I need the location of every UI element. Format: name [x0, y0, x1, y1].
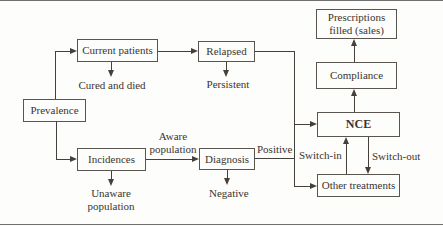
- node-current-patients: Current patients: [77, 39, 158, 62]
- connector-incidences-to-unaware: [111, 171, 112, 179]
- node-other-treatments: Other treatments: [317, 174, 400, 197]
- arrowhead-into-nce: [310, 121, 317, 127]
- connector-junction-to-nce: [294, 124, 310, 125]
- node-prescriptions-filled: Prescriptions filled (sales): [316, 9, 397, 39]
- label-unaware-population: Unaware population: [83, 187, 139, 212]
- arrowhead-switch-out: [365, 167, 371, 174]
- label-switch-out: Switch-out: [372, 150, 420, 163]
- connector-switch-out: [368, 137, 369, 167]
- node-incidences: Incidences: [77, 148, 146, 171]
- label-positive: Positive: [257, 143, 292, 156]
- connector-current-patients-to-relapsed: [158, 51, 191, 52]
- node-prevalence: Prevalence: [23, 99, 86, 122]
- connector-junction-to-other-treatments: [294, 186, 310, 187]
- node-diagnosis: Diagnosis: [199, 148, 255, 170]
- connector-current-patients-to-cured: [111, 62, 112, 70]
- arrowhead-to-unaware-population: [108, 179, 114, 186]
- connector-junction-vertical: [294, 51, 295, 187]
- node-nce: NCE: [317, 112, 400, 137]
- connector-prevalence-to-current-patients: [55, 51, 70, 52]
- figure-bottom-rule: [0, 224, 443, 225]
- arrowhead-into-compliance: [351, 89, 357, 96]
- connector-prevalence-down-vertical: [56, 121, 57, 159]
- connector-diagnosis-to-junction: [255, 158, 295, 159]
- label-cured-and-died: Cured and died: [76, 79, 148, 92]
- connector-relapsed-to-persistent: [226, 62, 227, 70]
- label-persistent: Persistent: [200, 78, 256, 91]
- label-switch-in: Switch-in: [299, 149, 342, 162]
- connector-incidences-to-diagnosis: [146, 159, 192, 160]
- arrowhead-to-persistent: [223, 70, 229, 77]
- figure-top-rule: [0, 0, 443, 1]
- label-aware-population: Aware population: [146, 130, 200, 155]
- arrowhead-switch-in: [343, 137, 349, 144]
- connector-nce-to-compliance: [354, 96, 355, 112]
- arrowhead-into-prescriptions: [351, 39, 357, 46]
- connector-compliance-to-prescriptions: [354, 46, 355, 62]
- connector-relapsed-to-junction: [255, 51, 295, 52]
- node-relapsed: Relapsed: [198, 41, 255, 62]
- arrowhead-into-other-treatments: [310, 183, 317, 189]
- arrowhead-into-diagnosis: [192, 156, 199, 162]
- node-compliance: Compliance: [316, 62, 397, 89]
- arrowhead-to-cured-and-died: [108, 70, 114, 77]
- flow-diagram: Prevalence Current patients Relapsed Inc…: [0, 0, 443, 226]
- arrowhead-into-relapsed: [191, 48, 198, 54]
- arrowhead-to-negative: [224, 178, 230, 185]
- connector-switch-in: [346, 144, 347, 174]
- connector-diagnosis-to-negative: [227, 170, 228, 178]
- connector-prevalence-to-incidences: [56, 159, 70, 160]
- connector-prevalence-up-vertical: [55, 51, 56, 99]
- label-negative: Negative: [209, 187, 249, 200]
- arrowhead-into-current-patients: [70, 48, 77, 54]
- arrowhead-into-incidences: [70, 156, 77, 162]
